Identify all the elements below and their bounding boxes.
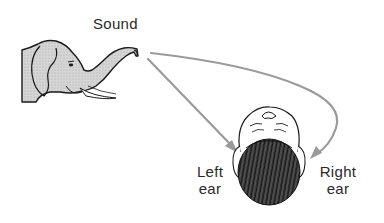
right-ear-label-line1: Right	[315, 163, 361, 180]
left-ear-label: Left ear	[190, 163, 230, 197]
elephant-icon	[22, 40, 138, 102]
sound-localization-diagram: Sound Left ear Right ear	[0, 0, 384, 223]
right-ear-label-line2: ear	[315, 180, 361, 197]
left-ear-label-line2: ear	[190, 180, 230, 197]
right-ear-label: Right ear	[315, 163, 361, 197]
left-ear-label-line1: Left	[190, 163, 230, 180]
arrowhead-right-icon	[310, 146, 322, 159]
arrow-to-left-ear	[148, 59, 238, 153]
head-top-view-icon	[233, 107, 305, 205]
sound-label: Sound	[93, 15, 138, 32]
